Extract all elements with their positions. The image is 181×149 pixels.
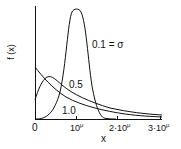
x-tick-label-1: 10μ <box>70 122 84 133</box>
y-axis-label: f (x) <box>6 44 16 60</box>
label-sigma-0-1: 0.1 = σ <box>92 39 124 50</box>
curve-sigma-0-1 <box>36 9 116 119</box>
lognormal-chart: 0.1 = σ 0.5 1.0 0 10μ 2·10μ 3·10μ x f (x… <box>0 0 181 149</box>
x-axis-label: x <box>101 133 106 144</box>
chart-svg: 0.1 = σ 0.5 1.0 0 10μ 2·10μ 3·10μ x f (x… <box>0 0 181 149</box>
x-tick-label-2: 2·10μ <box>109 122 131 133</box>
x-tick-label-0: 0 <box>32 122 38 133</box>
x-tick-label-3: 3·10μ <box>148 122 170 133</box>
label-sigma-0-5: 0.5 <box>69 79 83 90</box>
label-sigma-1-0: 1.0 <box>62 105 76 116</box>
